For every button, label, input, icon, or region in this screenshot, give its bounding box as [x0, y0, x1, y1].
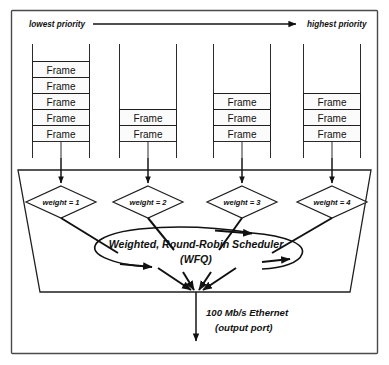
queue-4-frames: Frame Frame Frame: [304, 94, 361, 142]
scheduler-trapezoid: [18, 170, 371, 292]
frame-label: Frame: [318, 97, 347, 108]
queue-1: Frame Frame Frame Frame Frame: [33, 44, 90, 158]
frame-label: Frame: [47, 65, 76, 76]
weight-label: weight = 4: [314, 198, 352, 207]
frame-label: Frame: [134, 129, 163, 140]
queue-3-frames: Frame Frame Frame: [214, 94, 271, 142]
queue-2-frames: Frame Frame: [120, 110, 177, 142]
scheduler-title: Weighted, Round-Robin Scheduler: [109, 238, 284, 250]
frame-label: Frame: [318, 113, 347, 124]
highest-priority-label: highest priority: [307, 20, 367, 29]
frame-label: Frame: [47, 81, 76, 92]
frame-label: Frame: [228, 113, 257, 124]
queue-1-frames: Frame Frame Frame Frame Frame: [33, 62, 90, 142]
output-port-label: (output port): [215, 322, 273, 333]
frame-label: Frame: [134, 113, 163, 124]
weight-label: weight = 1: [43, 198, 80, 207]
lowest-priority-label: lowest priority: [29, 20, 85, 29]
frame-label: Frame: [228, 97, 257, 108]
frame-label: Frame: [228, 129, 257, 140]
frame-label: Frame: [47, 97, 76, 108]
frame-label: Frame: [47, 113, 76, 124]
wfq-diagram: lowest priority highest priority Frame F…: [0, 0, 389, 365]
scheduler-subtitle: (WFQ): [180, 253, 212, 265]
frame-label: Frame: [318, 129, 347, 140]
weight-label: weight = 3: [224, 198, 262, 207]
weight-label: weight = 2: [130, 198, 168, 207]
frame-label: Frame: [47, 129, 76, 140]
output-rate-label: 100 Mb/s Ethernet: [206, 307, 289, 318]
